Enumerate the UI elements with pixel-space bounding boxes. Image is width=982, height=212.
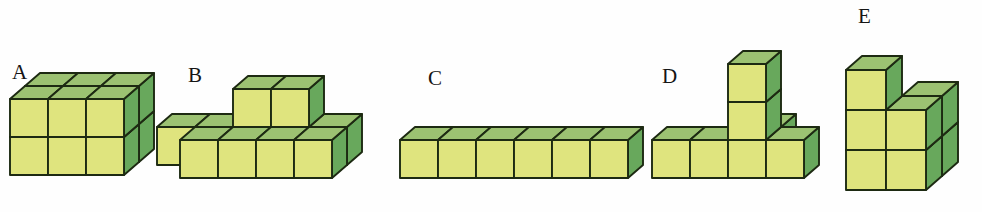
cube-figures-scene: ABCDE (0, 0, 982, 212)
cube-figure-e (0, 0, 982, 212)
cube-front-face (846, 70, 886, 110)
cube-front-face (886, 110, 926, 150)
cube-front-face (846, 110, 886, 150)
cube-figure-canvas-e (0, 0, 982, 212)
cube-front-face (886, 150, 926, 190)
cube (846, 56, 902, 110)
cube-front-face (846, 150, 886, 190)
cube (886, 96, 942, 150)
